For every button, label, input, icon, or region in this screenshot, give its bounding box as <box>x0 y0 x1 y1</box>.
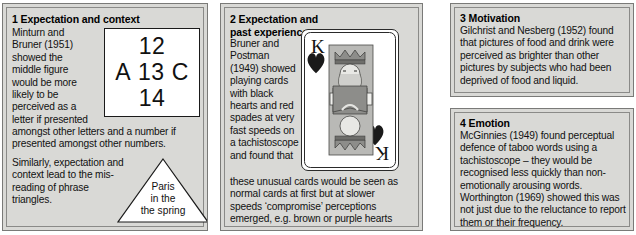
panel-motivation: 3 Motivation Gilchrist and Nesberg (1952… <box>450 3 634 97</box>
panel4-text: McGinnies (1949) found perceptual defenc… <box>460 130 632 229</box>
panel3-text: Gilchrist and Nesberg (1952) found that … <box>460 25 630 87</box>
panel-expectation-and-context: 1 Expectation and context Minturn and Br… <box>2 3 208 231</box>
playing-card-artwork-icon: K K <box>302 30 398 170</box>
ambiguous-figure-box: 12 A13C 14 <box>104 28 200 117</box>
figure-middle-left: A <box>115 59 131 85</box>
panel4-title: 4 Emotion <box>460 117 626 130</box>
panel-expectation-and-past-experience: 2 Expectation and past experience Bruner… <box>220 3 423 231</box>
panel1-full-width-text-2: Similarly, expectation and context lead … <box>12 157 124 207</box>
phrase-triangle: Paris in the the spring <box>115 156 208 226</box>
svg-text:K: K <box>375 143 389 164</box>
figure-row-middle: A13C <box>105 61 199 84</box>
figure-root: 1 Expectation and context Minturn and Br… <box>0 0 636 235</box>
panel1-title: 1 Expectation and context <box>12 13 202 26</box>
figure-row-bottom: 14 <box>105 87 199 110</box>
panel-emotion: 4 Emotion McGinnies (1949) found percept… <box>450 108 634 231</box>
panel1-column-text: Minturn and Bruner (1951) showed the mid… <box>12 27 98 126</box>
figure-middle-center: 13 <box>138 59 165 85</box>
playing-card-king-of-hearts: K K <box>301 29 399 171</box>
figure-row-top: 12 <box>105 35 199 58</box>
triangle-line-1: Paris <box>115 181 208 193</box>
figure-bottom-value: 14 <box>139 85 166 111</box>
triangle-line-3: the spring <box>115 205 208 217</box>
panel1-full-width-text: amongst other letters and a number if pr… <box>12 126 204 151</box>
figure-top-value: 12 <box>139 33 166 59</box>
panel3-title: 3 Motivation <box>460 12 626 25</box>
panel2-full-width-text: these unusual cards would be seen as nor… <box>230 176 418 226</box>
figure-middle-right: C <box>172 59 189 85</box>
triangle-line-2: in the <box>115 193 208 205</box>
